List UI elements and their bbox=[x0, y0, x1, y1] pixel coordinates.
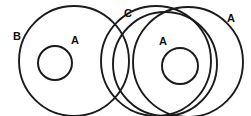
circle-a-inner-right bbox=[162, 48, 198, 84]
label-a-inner-left: A bbox=[71, 35, 79, 46]
label-a-inner-right: A bbox=[159, 36, 167, 47]
circle-c-middle bbox=[101, 6, 211, 116]
label-c-middle: C bbox=[124, 8, 132, 19]
label-b-outer-left: B bbox=[13, 31, 21, 42]
circle-a-inner-left bbox=[38, 46, 72, 80]
label-a-outer-right: A bbox=[227, 13, 235, 24]
venn-diagram: B A C A A bbox=[0, 0, 251, 116]
